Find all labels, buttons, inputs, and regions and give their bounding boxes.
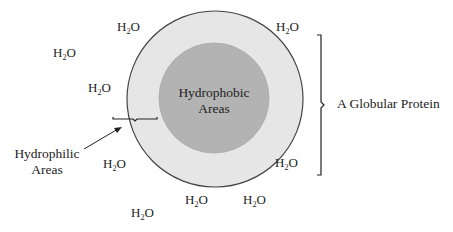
- hydrogen-symbol: H: [243, 192, 252, 207]
- water-molecule-label: H2O: [131, 206, 154, 220]
- hydrogen-symbol: H: [276, 19, 285, 34]
- water-molecule-label: H2O: [275, 156, 298, 170]
- oxygen-symbol: O: [198, 192, 207, 207]
- hydrogen-symbol: H: [131, 205, 140, 220]
- water-molecule-label: H2O: [243, 193, 266, 207]
- hydrophobic-label-line2: Areas: [172, 101, 256, 117]
- hydrophilic-label-line2: Areas: [8, 162, 86, 178]
- oxygen-symbol: O: [288, 155, 297, 170]
- oxygen-symbol: O: [256, 192, 265, 207]
- hydrogen-symbol: H: [275, 155, 284, 170]
- oxygen-symbol: O: [144, 205, 153, 220]
- water-molecule-label: H2O: [117, 20, 140, 34]
- water-molecule-label: H2O: [88, 81, 111, 95]
- hydrogen-symbol: H: [185, 192, 194, 207]
- hydrophilic-label-line1: Hydrophilic: [8, 146, 86, 162]
- water-molecule-label: H2O: [185, 193, 208, 207]
- hydrogen-symbol: H: [88, 80, 97, 95]
- globular-protein-label: A Globular Protein: [337, 97, 440, 111]
- water-molecule-label: H2O: [276, 20, 299, 34]
- hydrogen-symbol: H: [103, 156, 112, 171]
- water-molecule-label: H2O: [53, 46, 76, 60]
- hydrogen-symbol: H: [117, 19, 126, 34]
- hydrophobic-label: Hydrophobic Areas: [172, 85, 256, 117]
- arrow-head-icon: [114, 127, 122, 133]
- hydrophilic-label: Hydrophilic Areas: [8, 146, 86, 178]
- oxygen-symbol: O: [66, 45, 75, 60]
- oxygen-symbol: O: [289, 19, 298, 34]
- protein-brace-icon: [317, 35, 324, 175]
- hydrophobic-label-line1: Hydrophobic: [172, 85, 256, 101]
- hydrogen-symbol: H: [53, 45, 62, 60]
- oxygen-symbol: O: [101, 80, 110, 95]
- water-molecule-label: H2O: [103, 157, 126, 171]
- hydrophilic-arrow-line: [84, 129, 118, 149]
- oxygen-symbol: O: [116, 156, 125, 171]
- oxygen-symbol: O: [130, 19, 139, 34]
